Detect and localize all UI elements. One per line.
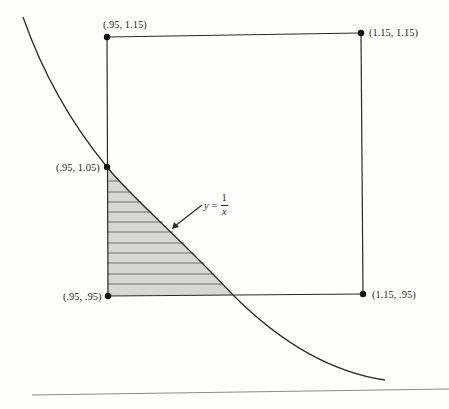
label-bottom-right: (1.15, .95) (372, 290, 416, 301)
equation-denominator: x (222, 206, 227, 218)
equation-lhs: y (204, 200, 209, 211)
curve-equation-label: y = 1 x (204, 193, 228, 217)
bottom-rule (32, 389, 449, 395)
equation-fraction: 1 x (221, 193, 228, 217)
label-bottom-left: (.95, .95) (63, 292, 102, 303)
label-middle-left: (.95, 1.05) (56, 163, 100, 174)
point-bottom-right (360, 291, 366, 297)
label-top-right: (1.15, 1.15) (369, 28, 418, 39)
equation-numerator: 1 (221, 193, 228, 206)
label-top-left: (.95, 1.15) (103, 20, 147, 31)
diagram-canvas: (.95, 1.15) (1.15, 1.15) (.95, 1.05) (.9… (0, 0, 449, 409)
label-arrow (172, 205, 202, 229)
point-top-right (358, 30, 364, 36)
equation-equals: = (212, 200, 218, 211)
point-top-left (104, 34, 110, 40)
point-bottom-left (105, 293, 111, 299)
point-middle-left (104, 164, 110, 170)
